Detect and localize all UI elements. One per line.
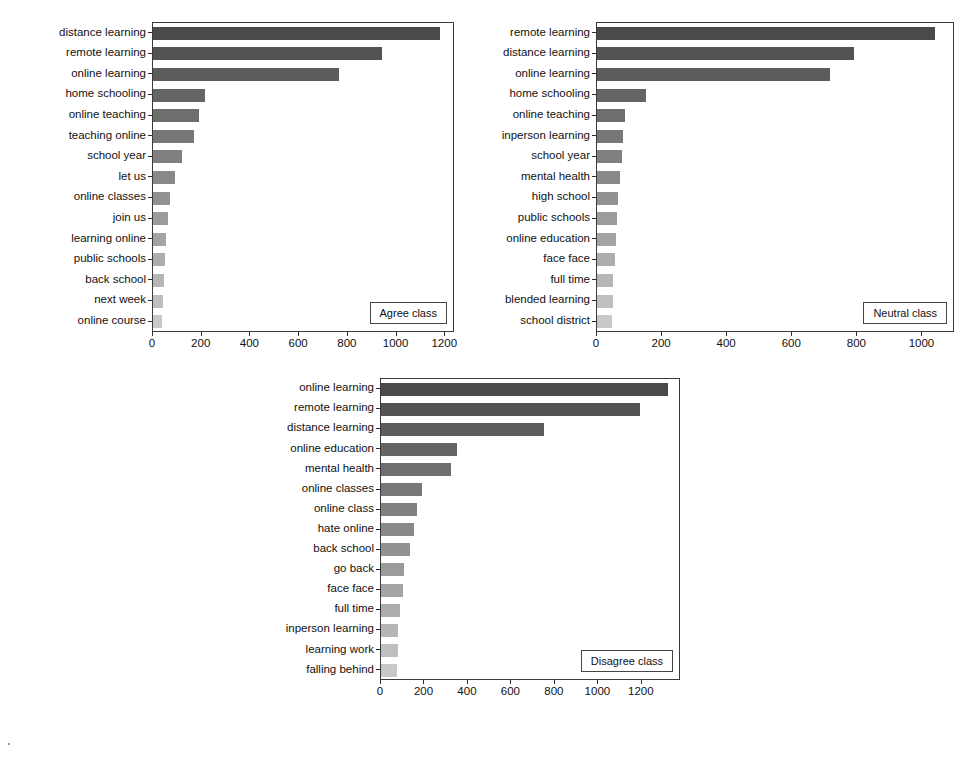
x-tick-label: 400 <box>717 337 736 349</box>
x-tick-mark <box>380 680 381 684</box>
bar <box>153 27 440 40</box>
bar <box>381 463 451 476</box>
y-tick-label: join us <box>0 207 152 228</box>
y-tick-label: public schools <box>0 249 152 270</box>
legend-label: Agree class <box>380 307 437 319</box>
y-tick-label: school year <box>0 146 152 167</box>
y-tick-label: online teaching <box>466 104 596 125</box>
x-tick-mark <box>249 332 250 336</box>
y-tick-label: online education <box>226 438 380 458</box>
y-tick-label: online learning <box>226 378 380 398</box>
bar <box>381 503 417 516</box>
x-tick-label: 1200 <box>628 685 654 697</box>
chart-panel-neutral: remote learningdistance learningonline l… <box>472 22 954 358</box>
y-axis-labels: distance learningremote learningonline l… <box>0 22 152 332</box>
chart-panel-agree: distance learningremote learningonline l… <box>0 22 454 358</box>
bar <box>381 563 404 576</box>
bar <box>153 295 163 308</box>
y-tick-label: online teaching <box>0 104 152 125</box>
bar <box>153 47 382 60</box>
chart-panel-disagree: online learningremote learningdistance l… <box>232 378 680 706</box>
y-tick-label: go back <box>226 559 380 579</box>
x-tick-label: 400 <box>457 685 476 697</box>
bar <box>153 315 162 328</box>
bar <box>153 253 165 266</box>
x-tick-label: 0 <box>593 337 599 349</box>
y-tick-label: online learning <box>466 63 596 84</box>
y-tick-label: remote learning <box>0 43 152 64</box>
y-tick-label: mental health <box>466 166 596 187</box>
y-tick-label: mental health <box>226 458 380 478</box>
x-tick-mark <box>510 680 511 684</box>
y-tick-label: learning work <box>226 639 380 659</box>
x-tick-label: 800 <box>847 337 866 349</box>
x-tick-label: 600 <box>501 685 520 697</box>
y-tick-label: online course <box>0 310 152 331</box>
y-tick-label: inperson learning <box>466 125 596 146</box>
legend-box: Disagree class <box>581 650 673 672</box>
x-axis: 020040060080010001200 <box>380 680 680 706</box>
bars-container: Disagree class <box>380 378 680 680</box>
bar <box>153 274 164 287</box>
y-tick-label: inperson learning <box>226 619 380 639</box>
bar <box>381 644 398 657</box>
y-tick-label: teaching online <box>0 125 152 146</box>
x-tick-mark <box>152 332 153 336</box>
x-axis: 02004006008001000 <box>596 332 954 358</box>
y-tick-label: school district <box>466 310 596 331</box>
bar <box>153 192 170 205</box>
legend-label: Neutral class <box>873 307 937 319</box>
x-tick-mark <box>396 332 397 336</box>
bar <box>153 150 182 163</box>
bar <box>381 383 668 396</box>
stray-mark <box>8 743 10 745</box>
x-tick-mark <box>726 332 727 336</box>
legend-label: Disagree class <box>591 655 663 667</box>
x-tick-mark <box>347 332 348 336</box>
bar <box>153 233 166 246</box>
bar <box>597 315 612 328</box>
y-tick-label: school year <box>466 146 596 167</box>
bar <box>153 171 175 184</box>
y-tick-label: online classes <box>226 479 380 499</box>
y-tick-label: learning online <box>0 228 152 249</box>
x-tick-label: 1000 <box>909 337 935 349</box>
legend-box: Neutral class <box>863 302 947 324</box>
x-tick-label: 200 <box>414 685 433 697</box>
x-tick-mark <box>856 332 857 336</box>
bar <box>153 130 194 143</box>
x-tick-label: 600 <box>782 337 801 349</box>
figure-canvas: distance learningremote learningonline l… <box>0 0 954 757</box>
bar <box>153 68 339 81</box>
plot-area: distance learningremote learningonline l… <box>0 22 454 332</box>
y-tick-label: distance learning <box>226 418 380 438</box>
bar <box>381 483 422 496</box>
bar <box>597 130 623 143</box>
bar <box>597 150 622 163</box>
x-tick-label: 1200 <box>431 337 457 349</box>
x-tick-mark <box>921 332 922 336</box>
x-tick-label: 0 <box>377 685 383 697</box>
bars-container: Neutral class <box>596 22 954 332</box>
y-tick-label: distance learning <box>466 43 596 64</box>
y-tick-label: remote learning <box>226 398 380 418</box>
x-tick-label: 200 <box>651 337 670 349</box>
bar <box>597 89 646 102</box>
y-tick-label: online class <box>226 499 380 519</box>
y-tick-label: back school <box>226 539 380 559</box>
plot-area: online learningremote learningdistance l… <box>232 378 680 680</box>
x-tick-label: 1000 <box>585 685 611 697</box>
x-tick-label: 600 <box>289 337 308 349</box>
bars-container: Agree class <box>152 22 454 332</box>
plot-area: remote learningdistance learningonline l… <box>472 22 954 332</box>
bar <box>597 27 935 40</box>
bar <box>597 109 625 122</box>
bar <box>597 47 854 60</box>
x-tick-label: 800 <box>337 337 356 349</box>
x-tick-mark <box>467 680 468 684</box>
y-tick-label: remote learning <box>466 22 596 43</box>
y-tick-label: next week <box>0 290 152 311</box>
bar <box>597 68 830 81</box>
y-tick-label: back school <box>0 269 152 290</box>
x-tick-mark <box>597 680 598 684</box>
